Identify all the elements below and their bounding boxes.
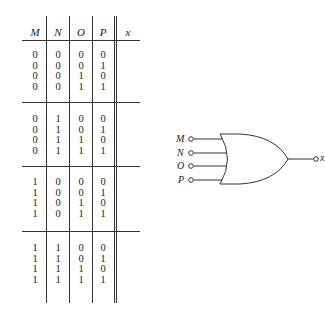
input-label-o: O <box>177 160 184 171</box>
output-label-x: x <box>320 152 324 163</box>
input-label-p: P <box>178 174 184 185</box>
or-gate-icon <box>0 0 325 312</box>
input-label-n: N <box>177 147 184 158</box>
input-label-m: M <box>176 133 184 144</box>
